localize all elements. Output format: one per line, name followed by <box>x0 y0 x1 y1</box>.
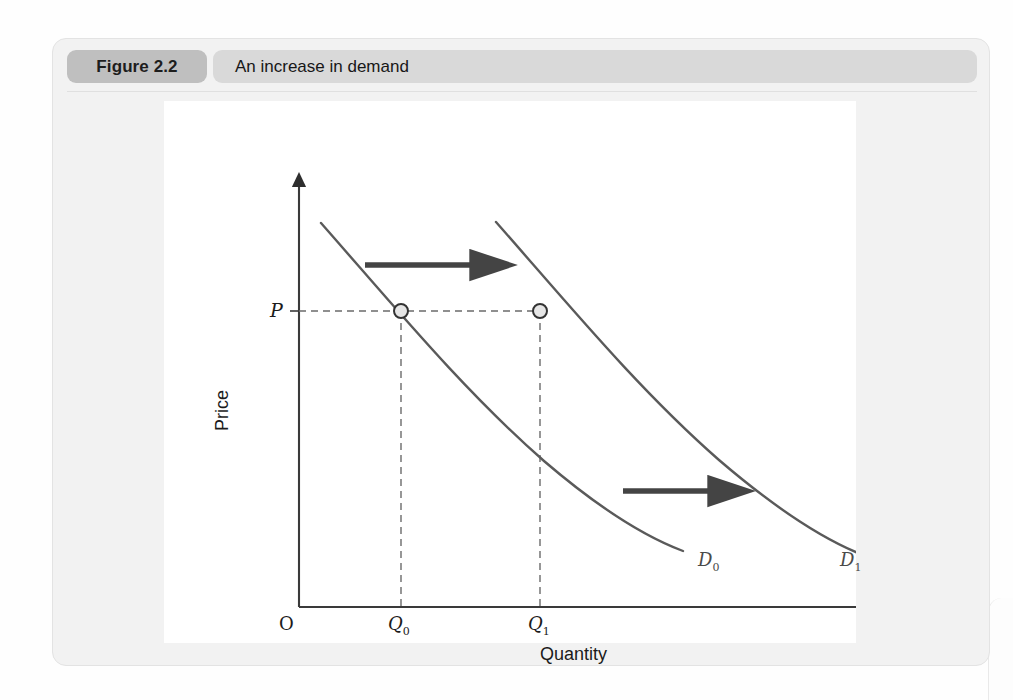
price-level-label: P <box>270 299 283 321</box>
x-tick-label-q1: Q1 <box>528 613 550 638</box>
figure-card: Figure 2.2 An increase in demand <box>52 38 990 666</box>
equilibrium-marker-q1 <box>533 304 547 318</box>
chart-plot-panel: Price P O Q0 Q1 Quantity D0 D1 <box>164 101 856 643</box>
x-tick-label-q0: Q0 <box>388 613 410 638</box>
y-axis-label-price: Price <box>212 390 233 431</box>
demand-curve-d0 <box>321 223 683 551</box>
figure-header: Figure 2.2 An increase in demand <box>67 50 977 83</box>
q1-letter: Q <box>528 613 543 634</box>
d1-letter: D <box>840 549 854 570</box>
figure-number-badge: Figure 2.2 <box>67 50 207 83</box>
d0-letter: D <box>698 549 712 570</box>
curve-label-d0: D0 <box>698 549 719 574</box>
figure-title: An increase in demand <box>213 50 977 83</box>
demand-curve-d1 <box>496 222 856 553</box>
origin-label: O <box>279 613 294 634</box>
x-axis-label-quantity: Quantity <box>540 644 607 665</box>
curve-label-d1: D1 <box>840 549 861 574</box>
q0-letter: Q <box>388 613 403 634</box>
demand-curve-chart <box>164 101 856 643</box>
q0-subscript: 0 <box>403 625 410 638</box>
page-root: Figure 2.2 An increase in demand <box>0 0 1013 700</box>
q1-subscript: 1 <box>543 625 550 638</box>
equilibrium-marker-q0 <box>394 304 408 318</box>
header-divider <box>67 91 977 92</box>
scanned-page-edge-artifact <box>988 598 1013 700</box>
d1-subscript: 1 <box>854 561 861 574</box>
d0-subscript: 0 <box>712 561 719 574</box>
